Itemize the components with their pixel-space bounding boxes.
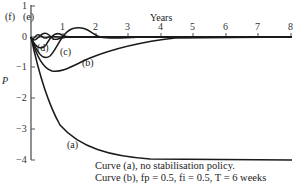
curve-label-d: (d) [37,42,49,54]
curve-label-c: (c) [60,46,71,58]
x-tick-label: 6 [223,21,228,32]
curve-label-b: (b) [82,57,94,69]
y-tick-label: −2 [16,92,27,103]
y-tick-label: 1 [22,0,27,11]
y-tick-label: −1 [16,61,27,72]
x-tick-label: 8 [288,21,293,32]
note-line: Curve (b), fp = 0.5, fi = 0.5, T = 6 wee… [95,172,266,184]
note-line: Curve (a), no stabilisation policy. [95,160,266,172]
y-tick-label: −3 [16,123,27,134]
y-axis-label: P [1,75,8,86]
curve-label-e: (e) [23,11,34,23]
x-tick-label: 5 [190,21,195,32]
x-tick-label: 2 [93,21,98,32]
x-axis-label: Years [150,12,172,23]
x-tick-label: 1 [60,21,65,32]
curve-notes: Curve (a), no stabilisation policy. Curv… [95,160,266,184]
curve-label-f: (f) [5,11,15,23]
curve-label-a: (a) [67,139,78,151]
x-tick-label: 3 [125,21,130,32]
y-tick-label: −4 [16,154,27,165]
y-tick-label: 0 [22,31,27,42]
x-tick-label: 7 [255,21,260,32]
